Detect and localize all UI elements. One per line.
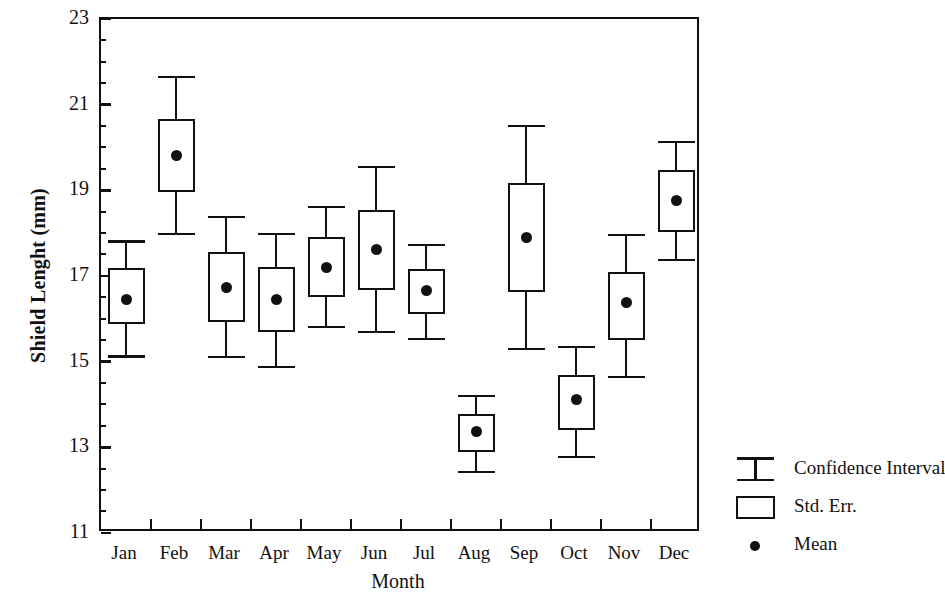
whisker-lower [275,332,278,367]
whisker-upper [375,167,378,210]
box-whisker-group [351,19,401,533]
rectangle-icon [728,490,784,524]
legend-label-std-err: Std. Err. [794,495,857,517]
cap-lower [408,338,445,341]
whisker-lower [425,314,428,339]
y-tick-label: 21 [43,93,89,113]
whisker-upper [225,217,228,252]
mean-marker [121,294,132,305]
whisker-upper [675,142,678,170]
y-tick-label: 19 [43,178,89,198]
cap-upper [208,216,245,219]
box-whisker-group [651,19,701,533]
cap-upper [408,244,445,247]
cap-lower [108,355,145,358]
legend-label-confidence-interval: Confidence Interval [794,457,945,479]
legend-item-std-err: Std. Err. [728,490,943,528]
cap-lower [308,326,345,329]
cap-upper [508,125,545,128]
box-whisker-group [301,19,351,533]
mean-marker [371,244,382,255]
cap-lower [608,376,645,379]
cap-upper [558,346,595,349]
whisker-lower [375,290,378,332]
y-tick-label: 17 [43,264,89,284]
whisker-lower [575,430,578,457]
box-whisker-group [151,19,201,533]
plot-area [99,17,699,531]
whisker-lower [175,192,178,234]
cap-lower [358,331,395,334]
cap-lower [558,456,595,459]
whisker-lower [225,322,228,357]
cap-upper [458,395,495,398]
mean-marker [271,294,282,305]
whisker-lower [475,452,478,472]
y-tick-label: 23 [43,7,89,27]
legend-label-mean: Mean [794,533,837,555]
whisker-upper [575,347,578,375]
box-whisker-group [451,19,501,533]
cap-upper [658,141,695,144]
box-whisker-group [101,19,151,533]
box-whisker-group [251,19,301,533]
mean-marker [471,426,482,437]
mean-marker [621,297,632,308]
cap-lower [208,356,245,359]
whisker-upper [475,396,478,414]
cap-upper [308,206,345,209]
mean-marker [671,195,682,206]
box-whisker-group [501,19,551,533]
cap-lower [158,233,195,236]
y-tick-label: 11 [43,521,89,541]
mean-marker [421,285,432,296]
cap-lower [508,348,545,351]
box-whisker-chart: Shield Lenght (mm) 11131517192123 JanFeb… [0,0,945,608]
whisker-upper [525,126,528,183]
chart-legend: Confidence Interval Std. Err. Mean [728,452,943,566]
whisker-lower [625,340,628,377]
whisker-lower [675,232,678,260]
whisker-upper [425,245,428,269]
whisker-upper [625,235,628,272]
mean-marker [171,150,182,161]
cap-upper [358,166,395,169]
whisker-upper [125,242,128,269]
box-whisker-group [201,19,251,533]
whisker-upper [325,207,328,237]
cap-upper [108,240,145,243]
whisker-upper [275,234,278,267]
box-whisker-group [401,19,451,533]
legend-item-confidence-interval: Confidence Interval [728,452,943,490]
whisker-lower [525,292,528,349]
x-axis-title: Month [98,570,698,593]
y-tick-label: 15 [43,350,89,370]
box-whisker-group [551,19,601,533]
whisker-upper [175,77,178,119]
cap-upper [158,76,195,79]
y-tick-label: 13 [43,435,89,455]
ibar-icon [728,452,784,486]
cap-lower [458,471,495,474]
whisker-lower [325,297,328,327]
dot-icon [728,528,784,562]
cap-upper [608,234,645,237]
x-tick-label: Dec [644,543,704,562]
legend-item-mean: Mean [728,528,943,566]
mean-marker [521,232,532,243]
cap-lower [258,366,295,369]
mean-marker [321,262,332,273]
mean-marker [221,282,232,293]
box-whisker-group [601,19,651,533]
mean-marker [571,394,582,405]
whisker-lower [125,324,128,357]
cap-upper [258,233,295,236]
cap-lower [658,259,695,262]
